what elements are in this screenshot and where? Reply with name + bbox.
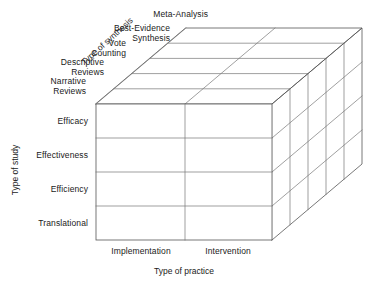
figure-root: Type of study Efficacy Effectiveness Eff…: [0, 0, 379, 281]
x-label-intervention: Intervention: [190, 247, 266, 257]
z-label-vote-counting-line2: Counting: [50, 49, 126, 59]
y-label-efficiency: Efficiency: [20, 185, 88, 195]
cube-right-face: [272, 28, 362, 240]
z-label-best-evidence-synthesis: Best-Evidence Synthesis: [82, 24, 170, 43]
cube-front-face: [96, 104, 272, 240]
y-label-translational: Translational: [14, 219, 88, 229]
z-label-best-evidence-synthesis-line2: Synthesis: [82, 34, 170, 44]
z-label-descriptive-reviews-line2: Reviews: [28, 68, 104, 78]
x-label-implementation: Implementation: [100, 247, 182, 257]
z-label-descriptive-reviews: Descriptive Reviews: [28, 58, 104, 77]
cube-geometry: [96, 28, 362, 240]
axis-title-type-of-practice: Type of practice: [124, 266, 244, 276]
y-label-effectiveness: Effectiveness: [12, 151, 88, 161]
axis-title-type-of-study: Type of study: [10, 133, 20, 207]
z-label-narrative-reviews: Narrative Reviews: [10, 77, 86, 96]
z-label-meta-analysis: Meta-Analysis: [120, 10, 208, 20]
z-label-narrative-reviews-line2: Reviews: [10, 87, 86, 97]
y-label-efficacy: Efficacy: [20, 117, 88, 127]
